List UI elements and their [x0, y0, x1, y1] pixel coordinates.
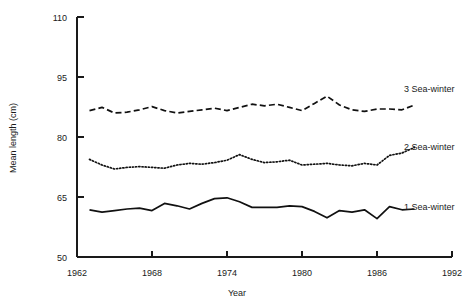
- x-axis-tick-labels: 196219681974198019861992: [67, 268, 462, 278]
- x-tick-label: 1968: [142, 268, 162, 278]
- y-tick-label: 65: [57, 193, 67, 203]
- x-axis-ticks: [77, 251, 452, 257]
- series-line-1-sea-winter: [90, 198, 415, 219]
- series-line-3-sea-winter: [90, 96, 415, 113]
- x-tick-label: 1980: [292, 268, 312, 278]
- y-axis-title: Mean length (cm): [8, 103, 18, 173]
- series-label-1-sea-winter: 1 Sea-winter: [404, 202, 455, 212]
- series-group: [90, 96, 415, 218]
- y-tick-label: 50: [57, 253, 67, 263]
- x-axis-title: Year: [228, 288, 246, 298]
- x-tick-label: 1992: [442, 268, 462, 278]
- x-tick-label: 1974: [217, 268, 237, 278]
- line-chart: 50658095110 196219681974198019861992 Yea…: [0, 0, 474, 302]
- y-tick-label: 80: [57, 133, 67, 143]
- chart-container: 50658095110 196219681974198019861992 Yea…: [0, 0, 474, 302]
- x-tick-label: 1962: [67, 268, 87, 278]
- x-tick-label: 1986: [367, 268, 387, 278]
- series-label-2-sea-winter: 2 Sea-winter: [404, 142, 455, 152]
- y-tick-label: 110: [53, 13, 67, 23]
- series-line-2-sea-winter: [90, 147, 415, 169]
- y-tick-label: 95: [57, 73, 67, 83]
- y-axis-tick-labels: 50658095110: [53, 13, 67, 263]
- y-axis-ticks: [77, 17, 84, 257]
- series-label-3-sea-winter: 3 Sea-winter: [404, 84, 455, 94]
